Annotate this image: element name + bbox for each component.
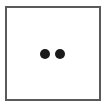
- dice-face-two[interactable]: [5, 6, 101, 101]
- pip-dot-right-icon: [55, 49, 65, 59]
- pip-dot-left-icon: [40, 49, 50, 59]
